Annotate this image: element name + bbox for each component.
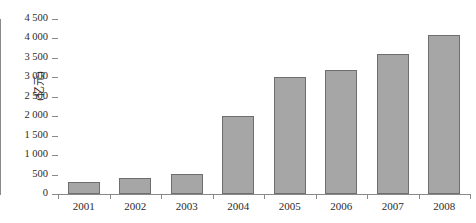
bar-2003	[171, 174, 203, 194]
x-tick-mark	[213, 194, 214, 199]
y-tick-mark	[52, 19, 58, 20]
y-tick-label: 500	[4, 168, 48, 179]
x-tick-mark	[161, 194, 162, 199]
bar-chart: (亿元) 05001 0001 5002 0002 5003 0003 5004…	[0, 0, 476, 223]
y-tick-label: 2 000	[4, 109, 48, 120]
y-axis-line	[0, 19, 1, 195]
bar-2002	[119, 178, 151, 194]
y-axis-title: (亿元)	[30, 56, 46, 116]
x-tick-mark	[419, 194, 420, 199]
x-tick-label-2007: 2007	[370, 200, 416, 212]
bar-2001	[68, 182, 100, 194]
y-tick-label: 2 500	[4, 90, 48, 101]
x-tick-mark	[264, 194, 265, 199]
bar-2006	[325, 70, 357, 194]
x-tick-label-2002: 2002	[112, 200, 158, 212]
y-tick-label: 3 500	[4, 51, 48, 62]
y-tick-mark	[52, 116, 58, 117]
x-tick-mark	[367, 194, 368, 199]
x-tick-label-2008: 2008	[421, 200, 467, 212]
y-tick-label: 4 000	[4, 31, 48, 42]
x-tick-mark	[470, 194, 471, 199]
y-tick-label: 1 500	[4, 129, 48, 140]
bar-2007	[377, 54, 409, 194]
y-tick-label: 3 000	[4, 70, 48, 81]
y-tick-mark	[52, 77, 58, 78]
bar-2005	[274, 77, 306, 194]
x-tick-label-2004: 2004	[215, 200, 261, 212]
x-tick-label-2005: 2005	[267, 200, 313, 212]
y-tick-mark	[52, 155, 58, 156]
y-tick-label: 1 000	[4, 148, 48, 159]
y-tick-label: 0	[4, 187, 48, 198]
y-tick-mark	[52, 175, 58, 176]
x-tick-label-2006: 2006	[318, 200, 364, 212]
y-tick-label: 4 500	[4, 12, 48, 23]
y-tick-mark	[52, 58, 58, 59]
bar-2008	[428, 35, 460, 194]
x-tick-mark	[110, 194, 111, 199]
x-tick-label-2003: 2003	[164, 200, 210, 212]
y-tick-mark	[52, 97, 58, 98]
y-tick-mark	[52, 38, 58, 39]
x-tick-mark	[58, 194, 59, 199]
bar-2004	[222, 116, 254, 194]
x-tick-mark	[316, 194, 317, 199]
x-tick-label-2001: 2001	[61, 200, 107, 212]
y-tick-mark	[52, 136, 58, 137]
